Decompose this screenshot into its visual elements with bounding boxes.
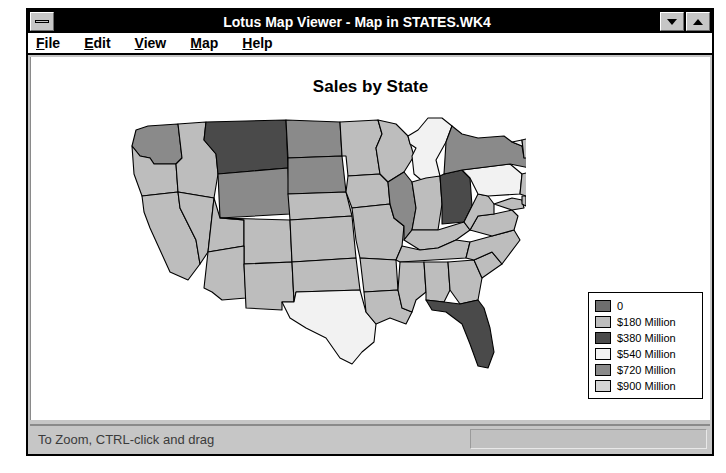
system-menu-icon[interactable] xyxy=(30,12,54,31)
legend-swatch xyxy=(595,364,611,376)
menu-rest-edit: dit xyxy=(93,35,110,51)
menu-item-file[interactable]: File xyxy=(36,35,60,51)
legend-swatch xyxy=(595,300,611,312)
chart-title: Sales by State xyxy=(31,77,710,97)
state-indiana[interactable] xyxy=(412,176,442,230)
state-delaware[interactable] xyxy=(522,196,526,206)
map-svg xyxy=(126,112,526,402)
choropleth-map[interactable] xyxy=(126,112,526,402)
legend-label: $900 Million xyxy=(617,380,676,392)
legend-swatch xyxy=(595,316,611,328)
map-legend: 0 $180 Million $380 Million $540 Million… xyxy=(588,292,703,399)
screenshot-root: Lotus Map Viewer - Map in STATES.WK4 Fil… xyxy=(0,0,726,473)
menu-item-view[interactable]: View xyxy=(135,35,167,51)
legend-label: $380 Million xyxy=(617,332,676,344)
state-arizona[interactable] xyxy=(204,246,246,300)
state-north-dakota[interactable] xyxy=(286,120,342,158)
application-window: Lotus Map Viewer - Map in STATES.WK4 Fil… xyxy=(26,8,714,456)
status-right-panel xyxy=(470,429,707,449)
legend-row[interactable]: $180 Million xyxy=(595,314,696,329)
legend-swatch xyxy=(595,380,611,392)
state-texas[interactable] xyxy=(282,290,376,364)
legend-row[interactable]: $540 Million xyxy=(595,346,696,361)
legend-row[interactable]: $900 Million xyxy=(595,378,696,393)
menu-accel-view: V xyxy=(135,35,144,51)
legend-row[interactable]: $380 Million xyxy=(595,330,696,345)
menu-rest-file: ile xyxy=(45,35,61,51)
state-iowa[interactable] xyxy=(346,174,390,208)
status-bar: To Zoom, CTRL-click and drag xyxy=(30,424,710,452)
legend-label: 0 xyxy=(617,300,623,312)
menu-bar: File Edit View Map Help xyxy=(28,33,712,55)
state-maryland[interactable] xyxy=(494,198,524,210)
minimize-button[interactable] xyxy=(660,12,684,31)
title-bar: Lotus Map Viewer - Map in STATES.WK4 xyxy=(28,10,712,33)
menu-accel-file: F xyxy=(36,35,45,51)
maximize-icon xyxy=(693,19,703,25)
status-hint: To Zoom, CTRL-click and drag xyxy=(30,426,470,452)
state-wisconsin[interactable] xyxy=(376,120,414,182)
legend-row[interactable]: 0 xyxy=(595,298,696,313)
legend-label: $540 Million xyxy=(617,348,676,360)
menu-rest-view: iew xyxy=(144,35,167,51)
legend-swatch xyxy=(595,348,611,360)
legend-label: $180 Million xyxy=(617,316,676,328)
system-menu-glyph xyxy=(35,20,49,23)
window-title: Lotus Map Viewer - Map in STATES.WK4 xyxy=(55,14,659,30)
menu-rest-map: ap xyxy=(202,35,218,51)
state-alabama[interactable] xyxy=(424,262,450,302)
maximize-button[interactable] xyxy=(686,12,710,31)
menu-accel-help: H xyxy=(242,35,252,51)
map-client-area[interactable]: Sales by State xyxy=(30,57,710,420)
legend-swatch xyxy=(595,332,611,344)
state-kansas[interactable] xyxy=(290,216,356,262)
menu-rest-help: elp xyxy=(252,35,272,51)
state-south-dakota[interactable] xyxy=(288,156,346,194)
state-mississippi[interactable] xyxy=(398,262,426,312)
state-arkansas[interactable] xyxy=(360,258,398,292)
menu-item-map[interactable]: Map xyxy=(190,35,218,51)
menu-item-help[interactable]: Help xyxy=(242,35,272,51)
state-nebraska[interactable] xyxy=(288,192,352,220)
state-wyoming[interactable] xyxy=(218,168,290,218)
state-florida[interactable] xyxy=(426,300,494,368)
legend-label: $720 Million xyxy=(617,364,676,376)
legend-row[interactable]: $720 Million xyxy=(595,362,696,377)
menu-item-edit[interactable]: Edit xyxy=(84,35,110,51)
menu-accel-map: M xyxy=(190,35,202,51)
minimize-icon xyxy=(667,19,677,25)
